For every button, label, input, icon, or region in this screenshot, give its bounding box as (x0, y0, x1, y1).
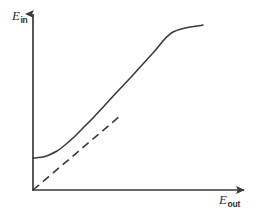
response-curve (33, 25, 203, 158)
x-axis-label-symbol: E (219, 192, 227, 207)
plot-svg (0, 0, 263, 214)
figure-container: Ein Eout (0, 0, 263, 214)
asymptote-dashed-line (33, 116, 120, 190)
y-axis-label-symbol: E (12, 8, 20, 23)
x-axis-label: Eout (219, 193, 240, 206)
y-axis-label-subscript: in (20, 15, 27, 25)
y-axis-label: Ein (12, 9, 27, 22)
x-axis-label-subscript: out (227, 199, 240, 209)
